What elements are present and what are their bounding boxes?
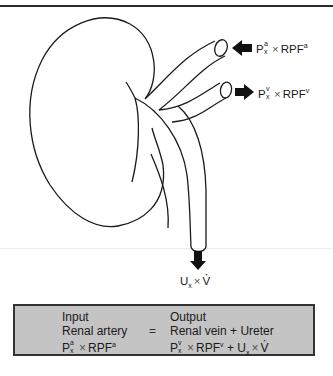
ureter-end [191, 247, 206, 252]
input-column: Input Renal artery Pax×RPFa [62, 311, 127, 356]
vein-flux-label: Pvx×RPFv [258, 87, 309, 100]
vein-opening [219, 81, 233, 99]
vein-outflow-arrow-icon [235, 84, 254, 100]
output-formula: Pvx×RPFv + Ux×V [170, 338, 274, 360]
artery-inflow-arrow-icon [232, 40, 252, 56]
equals-sign: = [149, 324, 156, 338]
ureter-flux-label: Ux×V [180, 276, 210, 289]
ureter-medial [151, 154, 168, 228]
output-heading: Output [170, 311, 274, 325]
output-column: Output Renal vein + Ureter Pvx×RPFv + Ux… [170, 311, 274, 360]
renal-artery-lower [159, 56, 225, 110]
input-formula: Pax×RPFa [62, 338, 127, 356]
output-destinations: Renal vein + Ureter [170, 325, 274, 339]
renal-vein-lower [172, 98, 226, 122]
ureter-outer [178, 106, 206, 247]
input-heading: Input [62, 311, 127, 325]
artery-flux-label: Pax×RPFa [256, 42, 308, 55]
mass-balance-equation-box: Input Renal artery Pax×RPFa = Output Ren… [13, 304, 315, 356]
artery-opening [212, 38, 229, 58]
renal-vein-upper [159, 83, 220, 110]
cropped-caption [12, 371, 318, 376]
hilum-edge [126, 82, 138, 182]
kidney-outline [30, 18, 164, 227]
